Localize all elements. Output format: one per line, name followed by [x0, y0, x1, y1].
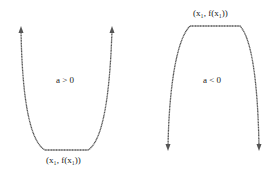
minimum-point-label: (x₁, f(x₁))	[46, 156, 81, 165]
arrow-up-right-icon	[110, 26, 115, 33]
arrow-up-left-icon	[19, 26, 24, 33]
maximum-point-label: (x₁, f(x₁))	[193, 9, 228, 18]
diagram-canvas	[0, 0, 272, 175]
arrow-down-right-icon	[257, 144, 262, 151]
condition-label-positive: a > 0	[56, 76, 74, 85]
upward-curve	[21, 30, 112, 150]
arrow-down-left-icon	[166, 144, 171, 151]
condition-label-negative: a < 0	[203, 76, 221, 85]
downward-curve	[168, 26, 259, 147]
